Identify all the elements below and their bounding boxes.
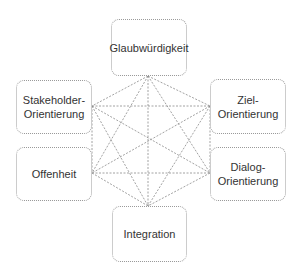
node-label: Ziel- Orientierung xyxy=(218,93,279,121)
node-label: Glaubwürdigkeit xyxy=(110,41,189,55)
node-dialog-orientierung: Dialog- Orientierung xyxy=(210,147,286,201)
edge-lowerleft-bottom xyxy=(92,173,148,206)
node-stakeholder-orientierung: Stakeholder- Orientierung xyxy=(16,80,92,134)
node-label: Offenheit xyxy=(32,167,76,181)
node-glaubwuerdigkeit: Glaubwürdigkeit xyxy=(111,19,187,76)
edge-upperright-lowerleft xyxy=(92,106,210,173)
node-label: Dialog- Orientierung xyxy=(218,160,279,188)
edge-top-lowerright xyxy=(148,76,210,173)
node-label: Stakeholder- Orientierung xyxy=(23,93,85,121)
edge-lowerright-bottom xyxy=(148,173,210,206)
edge-upperleft-bottom xyxy=(92,106,148,206)
node-offenheit: Offenheit xyxy=(16,147,92,201)
edge-top-upperleft xyxy=(92,76,148,106)
node-label: Integration xyxy=(124,227,176,241)
node-ziel-orientierung: Ziel- Orientierung xyxy=(210,79,286,134)
edge-upperright-bottom xyxy=(148,106,210,206)
node-integration: Integration xyxy=(112,206,187,262)
diagram-canvas: Glaubwürdigkeit Stakeholder- Orientierun… xyxy=(0,0,298,273)
